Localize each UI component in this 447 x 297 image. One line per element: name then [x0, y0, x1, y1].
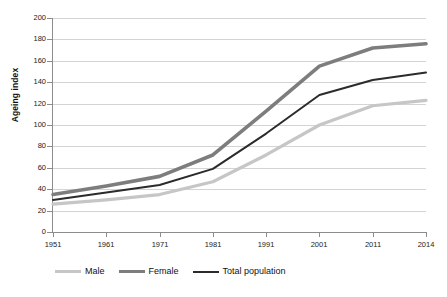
- legend-item-female[interactable]: Female: [119, 266, 179, 277]
- legend-label: Male: [85, 266, 105, 277]
- legend-swatch-icon: [55, 270, 81, 273]
- legend-swatch-icon: [119, 270, 145, 274]
- series-line-female: [53, 44, 426, 195]
- legend-label: Female: [149, 266, 179, 277]
- legend-item-total-population[interactable]: Total population: [193, 266, 286, 277]
- series-lines: [0, 0, 447, 297]
- legend-label: Total population: [223, 266, 286, 277]
- chart-legend: MaleFemaleTotal population: [55, 266, 286, 277]
- series-line-total-population: [53, 73, 426, 200]
- legend-swatch-icon: [193, 271, 219, 273]
- legend-item-male[interactable]: Male: [55, 266, 105, 277]
- ageing-index-line-chart: Ageing index 020406080100120140160180200…: [0, 0, 447, 297]
